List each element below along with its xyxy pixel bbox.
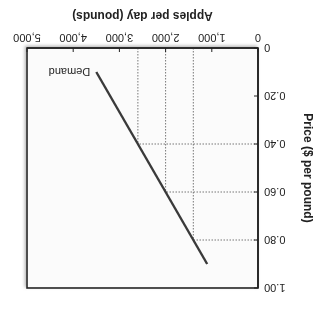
demand-chart: 01,0002,0003,0004,0005,00000.200.400.600… — [0, 0, 316, 310]
y-tick-label: 0.40 — [264, 138, 285, 150]
chart-container: 01,0002,0003,0004,0005,00000.200.400.600… — [0, 0, 316, 310]
x-axis-title: Apples per day (pounds) — [72, 9, 213, 23]
x-tick-label: 3,000 — [106, 32, 134, 44]
y-tick-label: 0 — [264, 42, 270, 54]
x-tick-label: 1,000 — [198, 32, 226, 44]
y-tick-label: 0.60 — [264, 186, 285, 198]
plot-area — [27, 48, 258, 288]
y-axis-title: Price ($ per pound) — [301, 113, 315, 222]
x-tick-label: 2,000 — [152, 32, 180, 44]
demand-label: Demand — [49, 66, 91, 78]
y-tick-label: 1.00 — [264, 282, 285, 294]
y-tick-label: 0.80 — [264, 234, 285, 246]
x-tick-label: 5,000 — [13, 32, 41, 44]
y-tick-label: 0.20 — [264, 90, 285, 102]
x-tick-label: 4,000 — [59, 32, 87, 44]
x-tick-label: 0 — [255, 32, 261, 44]
